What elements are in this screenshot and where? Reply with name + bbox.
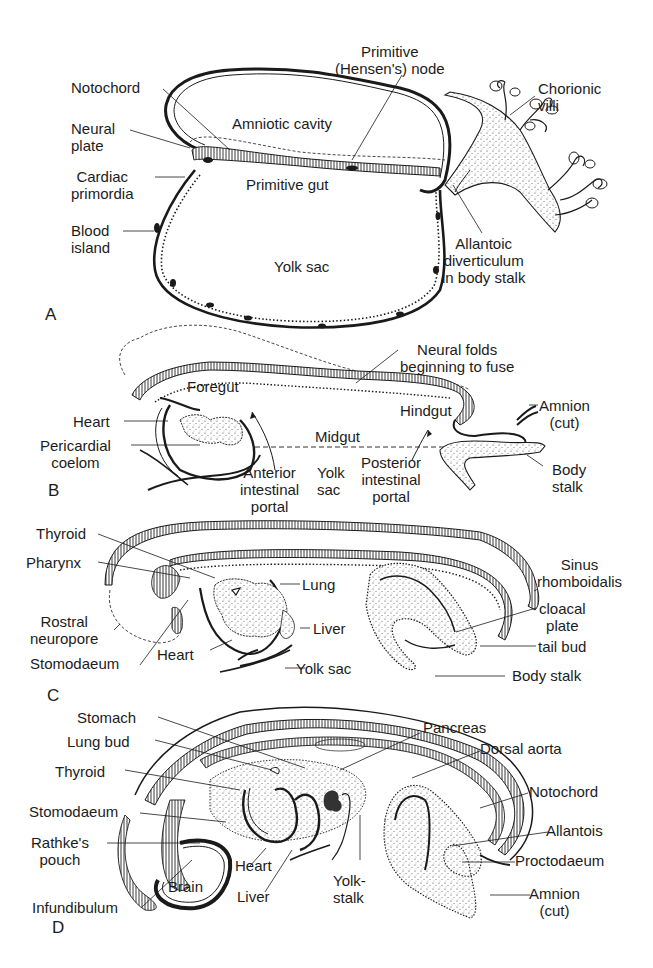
label-primitive-gut: Primitive gut	[246, 176, 329, 193]
label-thyroid-d: Thyroid	[55, 763, 105, 780]
label-amnion-cut: Amnion (cut)	[539, 397, 590, 431]
label-stomach: Stomach	[77, 709, 136, 726]
label-sinus-rhomboidalis: Sinus rhomboidalis	[537, 556, 622, 590]
label-neural-plate: Neural plate	[71, 120, 115, 154]
label-primitive-node: Primitive (Hensen's) node	[335, 43, 445, 77]
label-heart-d: Heart	[235, 857, 272, 874]
panel-a-drawing	[123, 69, 607, 329]
label-hindgut: Hindgut	[400, 402, 452, 419]
label-anterior-portal: Anterior intestinal portal	[240, 464, 299, 515]
label-foregut: Foregut	[187, 378, 239, 395]
label-allantoic-diverticulum: Allantoic diverticulum in body stalk	[442, 235, 525, 286]
label-infundibulum: Infundibulum	[32, 899, 118, 916]
label-heart-c: Heart	[157, 646, 194, 663]
label-brain: Brain	[168, 878, 203, 895]
panel-letter-b: B	[48, 481, 59, 501]
label-chorionic-villi: Chorionic villi	[538, 80, 601, 114]
label-notochord-d: Notochord	[529, 783, 598, 800]
label-stomodaeum-c: Stomodaeum	[30, 655, 119, 672]
label-cloacal-plate: cloacal plate	[539, 600, 586, 634]
panel-letter-d: D	[52, 918, 64, 938]
panel-letter-c: C	[47, 686, 59, 706]
label-thyroid-c: Thyroid	[36, 525, 86, 542]
label-amniotic-cavity: Amniotic cavity	[232, 115, 332, 132]
label-proctodaeum: Proctodaeum	[515, 852, 604, 869]
label-neural-folds: Neural folds beginning to fuse	[400, 341, 514, 375]
label-cardiac-primordia: Cardiac primordia	[71, 168, 134, 202]
label-amnion-cut-d: Amnion (cut)	[529, 885, 580, 919]
panel-letter-a: A	[45, 305, 56, 325]
label-rostral-neuropore: Rostral neuropore	[30, 613, 98, 647]
label-notochord: Notochord	[71, 79, 140, 96]
label-pharynx: Pharynx	[26, 554, 81, 571]
label-body-stalk-c: Body stalk	[512, 667, 581, 684]
label-pericardial-coelom: Pericardial coelom	[40, 437, 111, 471]
label-heart: Heart	[73, 413, 110, 430]
label-lung-bud: Lung bud	[67, 733, 130, 750]
label-posterior-portal: Posterior intestinal portal	[361, 454, 421, 505]
label-midgut: Midgut	[315, 428, 360, 445]
label-yolk-sac-b: Yolk sac	[317, 464, 345, 498]
label-tail-bud: tail bud	[538, 638, 586, 655]
label-blood-island: Blood island	[71, 222, 110, 256]
label-pancreas: Pancreas	[423, 719, 486, 736]
label-lung: Lung	[302, 576, 335, 593]
label-liver-d: Liver	[237, 888, 270, 905]
label-body-stalk-b: Body stalk	[552, 461, 586, 495]
label-yolk-sac-c: Yolk sac	[296, 660, 351, 677]
label-dorsal-aorta: Dorsal aorta	[480, 740, 562, 757]
label-liver-c: Liver	[313, 620, 346, 637]
label-rathkes-pouch: Rathke's pouch	[31, 834, 89, 868]
label-yolk-sac: Yolk sac	[274, 258, 329, 275]
label-stomodaeum-d: Stomodaeum	[29, 803, 118, 820]
label-allantois: Allantois	[546, 822, 603, 839]
label-yolk-stalk: Yolk- stalk	[333, 872, 366, 906]
